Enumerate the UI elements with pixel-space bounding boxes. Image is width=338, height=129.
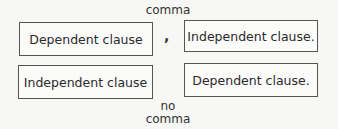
comma-label: comma [140, 4, 196, 17]
independent-clause-box-row1: Independent clause. [184, 20, 318, 52]
comma-separator: , [164, 28, 169, 44]
independent-clause-box-row2: Independent clause [18, 65, 153, 99]
dependent-clause-box-row1: Dependent clause [19, 22, 153, 56]
dependent-clause-box-row2: Dependent clause. [184, 63, 318, 97]
no-comma-label: comma [140, 113, 196, 126]
